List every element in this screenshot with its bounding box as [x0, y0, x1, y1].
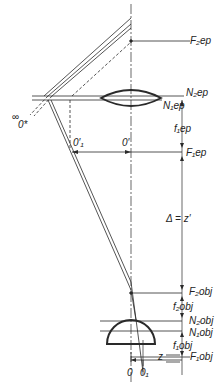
- label-o-prime: 0′: [122, 138, 129, 148]
- optical-diagram: [0, 0, 221, 388]
- label-z: z: [158, 352, 163, 362]
- label-f1ep-length: f₁ep: [174, 124, 191, 134]
- label-o-star: 0*: [18, 120, 27, 130]
- label-n2ep: N₂ep: [186, 88, 208, 98]
- label-o: 0: [127, 368, 133, 378]
- label-f2obj-length: f₂obj: [173, 302, 193, 312]
- label-n1ep: N₁ep: [163, 101, 185, 111]
- label-f2ep: F₂ep: [190, 36, 211, 46]
- label-o1-prime: 0′₁: [73, 138, 84, 148]
- label-n2obj: N₂obj: [189, 316, 213, 326]
- label-f1ep: F₁ep: [186, 148, 206, 158]
- label-f1obj: F₁obj: [190, 352, 213, 362]
- label-f1obj-length: f₁obj: [173, 341, 192, 351]
- label-delta: Δ = z′: [166, 214, 191, 224]
- label-o1: 0₁: [140, 368, 149, 378]
- label-f2obj: F₂obj: [189, 287, 212, 297]
- label-n1obj: N₁obj: [189, 328, 213, 338]
